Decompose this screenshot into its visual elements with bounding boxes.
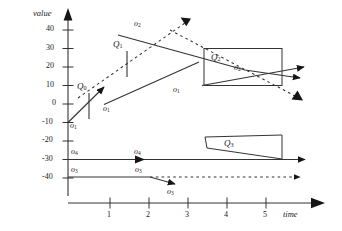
trajectory-o2-past	[118, 35, 300, 78]
query-label-Q1: Q1	[113, 40, 123, 49]
x-tick-2: 2	[146, 211, 150, 219]
query-label-Q2: Q2	[211, 53, 221, 62]
trajectory-o1-predicted	[104, 62, 199, 105]
trajectory-query-figure: value time 40 30 20 10 0 -10 -20 -30 -40…	[0, 0, 342, 231]
o2-up-arrowhead	[181, 18, 191, 27]
x-tick-5: 5	[263, 211, 267, 219]
x-tick-4: 4	[224, 211, 228, 219]
y-tick-minus20: -20	[42, 136, 53, 144]
object-label-o2-past: o2	[134, 20, 141, 29]
y-tick-minus40: -40	[42, 173, 53, 181]
trajectory-o4	[68, 155, 305, 163]
query-label-Q3: Q3	[224, 139, 234, 148]
object-label-o1-q2: o1	[173, 86, 180, 95]
trajectory-o1-past	[68, 87, 104, 123]
o4-mid-arrowhead	[135, 155, 145, 163]
object-label-o2-q2: o2	[234, 64, 241, 73]
object-label-o3-end: o3	[167, 188, 174, 197]
object-label-o4-origin: o4	[71, 148, 78, 157]
y-axis-label: value	[33, 9, 51, 18]
query-label-Q0: Q0	[77, 82, 87, 91]
trajectory-o3-past	[68, 177, 175, 184]
y-tick-minus10: -10	[42, 118, 53, 126]
object-label-o1-predicted: o1	[103, 105, 110, 114]
x-tick-3: 3	[185, 211, 189, 219]
y-axis-arrowhead	[64, 8, 73, 21]
y-tick-0: 0	[52, 99, 56, 107]
y-tick-20: 20	[46, 62, 54, 70]
y-tick-10: 10	[46, 81, 54, 89]
object-label-o1-origin: o1	[70, 122, 77, 131]
axis-x	[68, 198, 325, 209]
y-tick-30: 30	[46, 44, 54, 52]
x-axis-label: time	[283, 210, 298, 219]
y-tick-minus30: -30	[42, 155, 53, 163]
x-axis-arrowhead	[311, 198, 325, 208]
query-region-Q3	[205, 135, 282, 159]
object-label-o3-mid: o3	[135, 166, 142, 175]
object-label-o3-origin: o3	[71, 166, 78, 175]
y-tick-40: 40	[46, 25, 54, 33]
object-label-o4-mid: o4	[134, 148, 141, 157]
x-tick-1: 1	[107, 211, 111, 219]
